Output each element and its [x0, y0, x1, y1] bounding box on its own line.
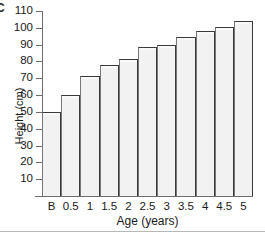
x-axis-tick-label: 2: [119, 199, 138, 215]
y-axis-title: Height (cm): [0, 56, 16, 176]
y-axis-tick-label: 30: [20, 139, 33, 152]
x-axis-line: [35, 196, 253, 197]
x-axis-tick-label: B: [42, 199, 61, 215]
bar: [119, 59, 138, 196]
bar: [100, 65, 119, 196]
y-axis-tick-label: 20: [20, 155, 33, 168]
plot-area: 110100908070605040302010: [42, 11, 253, 196]
x-axis-tick-label: 4: [196, 199, 215, 215]
x-axis-tick-label: 3: [157, 199, 176, 215]
y-axis-tick-label: 60: [20, 88, 33, 101]
bar: [215, 27, 234, 196]
y-axis-tick-label: 100: [14, 21, 33, 34]
bar: [157, 45, 176, 196]
x-axis-tick-label: 1.5: [100, 199, 119, 215]
x-axis-tick-label: 3.5: [176, 199, 195, 215]
y-axis-tick-label: 80: [20, 54, 33, 67]
y-axis-tick-label: 50: [20, 105, 33, 118]
bottom-divider: [0, 231, 265, 232]
y-axis-tick-label: 10: [20, 172, 33, 185]
x-axis-tick-label: 5: [234, 199, 253, 215]
x-axis-tick-labels: B0.511.522.533.544.55: [42, 199, 253, 215]
x-axis-tick-label: 2.5: [138, 199, 157, 215]
x-axis-title: Age (years): [42, 214, 253, 229]
x-axis-tick-label: 1: [80, 199, 99, 215]
bar: [234, 21, 253, 196]
x-axis-tick-label: 0.5: [61, 199, 80, 215]
y-axis-tick-label: 40: [20, 122, 33, 135]
panel-letter: C: [0, 1, 8, 15]
bar-series: [42, 11, 253, 196]
bar: [176, 37, 195, 196]
y-axis-tick-label: 70: [20, 71, 33, 84]
bar: [42, 112, 61, 196]
bar: [138, 47, 157, 196]
bar-chart-figure: C Height (cm) 110100908070605040302010 B…: [0, 0, 265, 234]
y-axis-tick-label: 90: [20, 38, 33, 51]
bar: [80, 76, 99, 196]
x-axis-tick-label: 4.5: [215, 199, 234, 215]
bar: [196, 31, 215, 196]
y-axis-tick-label: 110: [15, 4, 33, 17]
bar: [61, 95, 80, 196]
